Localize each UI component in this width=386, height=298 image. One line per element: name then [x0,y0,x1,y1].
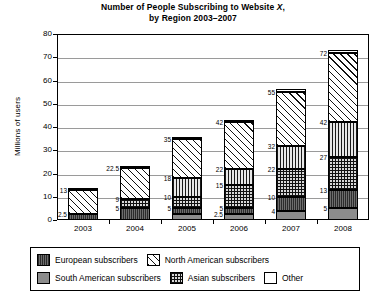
bar-segment [328,208,358,220]
x-tick-label: 2005 [178,224,196,233]
bar-segment [276,211,306,220]
y-tick-label: 10 [26,193,52,201]
bar-column[interactable] [317,34,369,220]
bar-segment [276,92,306,145]
bar-segment [224,169,254,185]
legend-item-european[interactable]: European subscribers [37,254,138,266]
bar-segment [172,214,202,220]
y-tick-label: 40 [26,123,52,131]
y-tick-label: 0 [26,216,52,224]
y-tick-label: 80 [26,30,52,38]
x-tick-label: 2007 [282,224,300,233]
y-tick-label: 60 [26,77,52,85]
bar-segment [224,214,254,220]
y-tick-label: 50 [26,100,52,108]
legend-item-other[interactable]: Other [264,272,303,284]
bar-segment [224,122,254,169]
legend-label-north-american: North American subscribers [165,256,269,265]
bar-segment [328,157,358,190]
chart-title: Number of People Subscribing to Website … [0,2,386,24]
bar-segment [120,166,150,168]
bar-segment [172,197,202,209]
bar-segment [172,137,202,139]
legend-item-asian[interactable]: Asian subscribers [170,272,255,284]
legend-row-1: European subscribers North American subs… [37,251,355,269]
y-axis-title: Millions of users [13,72,22,182]
chart-title-line-2: by Region 2003–2007 [0,13,386,24]
y-tick-label: 70 [26,53,52,61]
bar-segment [224,185,254,208]
chart-page: Number of People Subscribing to Website … [0,0,386,298]
bar-segment [172,208,202,214]
bar-segment [224,120,254,123]
x-tick-label: 2008 [334,224,352,233]
bar-segment [224,208,254,214]
x-tick-label: 2004 [126,224,144,233]
bar-segment [68,214,98,220]
bar-segment [328,53,358,123]
y-tick-label: 30 [26,146,52,154]
bar-segment [276,89,306,92]
legend-swatch-south-american-icon [37,272,50,284]
bar-segment [68,188,98,190]
legend-swatch-north-american-icon [147,254,160,266]
bar-segment [120,208,150,220]
legend-label-asian: Asian subscribers [188,274,255,283]
plot-area: Millions of users 01020304050607080 2.51… [0,26,386,242]
legend-label-european: European subscribers [55,256,138,265]
chart-title-line-1: Number of People Subscribing to Website … [0,2,386,13]
chart-legend: European subscribers North American subs… [30,247,360,291]
bar-column[interactable] [213,34,265,220]
legend-swatch-asian-icon [170,272,183,284]
bar-segment [276,169,306,197]
chart-title-line-1-text: Number of People Subscribing to Website … [101,2,285,12]
legend-item-south-american[interactable]: South American subscribers [37,272,161,284]
bar-column[interactable] [161,34,213,220]
bar-segment [328,122,358,157]
bar-segment [68,190,98,214]
bar-segment [276,146,306,169]
bar-segment [276,197,306,211]
legend-swatch-european-icon [37,254,50,266]
bar-segment [328,190,358,209]
legend-label-south-american: South American subscribers [55,274,161,283]
x-tick-label: 2003 [74,224,92,233]
y-tick-label: 20 [26,170,52,178]
legend-label-other: Other [282,274,303,283]
y-tick-mark [53,220,57,221]
bar-segment [120,168,150,199]
legend-swatch-other-icon [264,272,277,284]
bar-series-container: 2.5135922.551018352.55152242410223255513… [57,34,369,220]
bar-column[interactable] [109,34,161,220]
legend-item-north-american[interactable]: North American subscribers [147,254,269,266]
bar-segment [120,199,150,208]
x-axis-labels: 200320042005200620072008 [57,224,369,238]
x-tick-label: 2006 [230,224,248,233]
bar-segment [328,50,358,53]
bar-segment [172,139,202,179]
bar-segment [172,178,202,197]
bar-column[interactable] [57,34,109,220]
legend-row-2: South American subscribers Asian subscri… [37,269,355,287]
bar-column[interactable] [265,34,317,220]
